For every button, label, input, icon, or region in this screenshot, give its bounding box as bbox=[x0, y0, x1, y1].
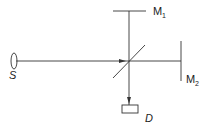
mirror-2-label-main: M bbox=[186, 73, 195, 85]
interferometer-diagram: S M 1 M 2 D bbox=[0, 0, 210, 132]
source-label: S bbox=[9, 69, 17, 81]
arrow-down-icon bbox=[127, 97, 131, 104]
mirror-2-label: M bbox=[186, 73, 195, 85]
detector-label: D bbox=[145, 112, 153, 124]
mirror-1-label-main: M bbox=[153, 5, 162, 17]
mirror-2-label-sub: 2 bbox=[195, 80, 199, 87]
arrow-right-icon bbox=[119, 59, 126, 63]
detector-box bbox=[122, 105, 138, 113]
mirror-1-label-sub: 1 bbox=[162, 12, 166, 19]
mirror-1-label: M bbox=[153, 5, 162, 17]
